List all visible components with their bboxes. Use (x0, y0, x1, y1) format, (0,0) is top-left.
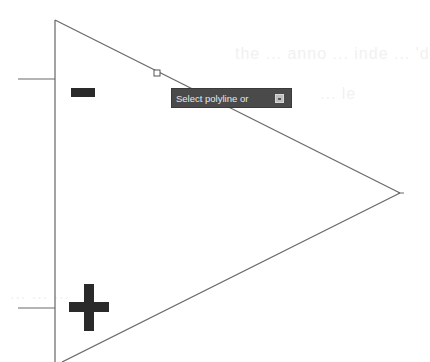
dropdown-arrow-icon[interactable] (275, 94, 284, 103)
minus-sign-icon (71, 88, 95, 97)
command-tooltip: Select polyline or (171, 88, 292, 108)
plus-sign-icon (69, 284, 109, 331)
tooltip-prompt: Select polyline or (176, 93, 248, 104)
grip-point-icon[interactable] (154, 70, 160, 76)
